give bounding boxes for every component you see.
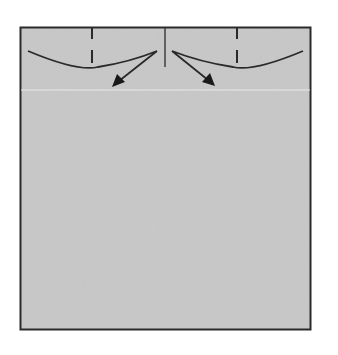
origami-diagram <box>0 0 338 355</box>
paper-sheet <box>21 28 311 330</box>
